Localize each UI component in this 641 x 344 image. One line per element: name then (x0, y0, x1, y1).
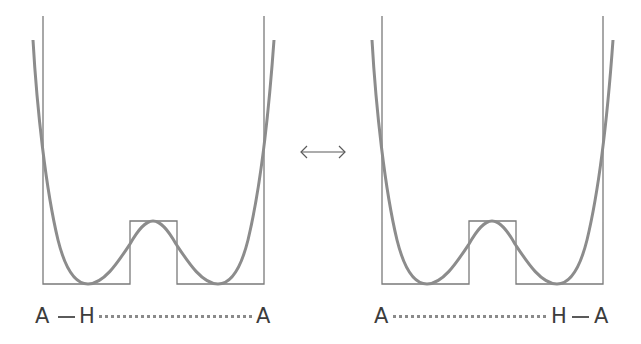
left-double-well-curve (33, 40, 274, 284)
right-panel-hydrogen-bond (393, 315, 546, 318)
left-panel-hydrogen-bond (99, 315, 252, 318)
left-panel (33, 16, 274, 284)
right-panel-covalent-bond (572, 316, 589, 318)
equilibrium-double-arrow-icon (301, 146, 345, 158)
right-square-well-outline (382, 16, 603, 284)
right-panel (372, 16, 613, 284)
right-double-well-curve (372, 40, 613, 284)
left-panel-covalent-bond (58, 316, 75, 318)
left-square-well-outline (43, 16, 264, 284)
right-panel-atom-a-right: A (594, 306, 608, 327)
right-panel-atom-a-left: A (374, 306, 388, 327)
diagram-canvas (0, 0, 641, 344)
left-panel-atom-a-right: A (256, 306, 270, 327)
left-panel-atom-h: H (79, 306, 95, 327)
left-panel-atom-a-left: A (35, 306, 49, 327)
right-panel-atom-h: H (551, 306, 567, 327)
